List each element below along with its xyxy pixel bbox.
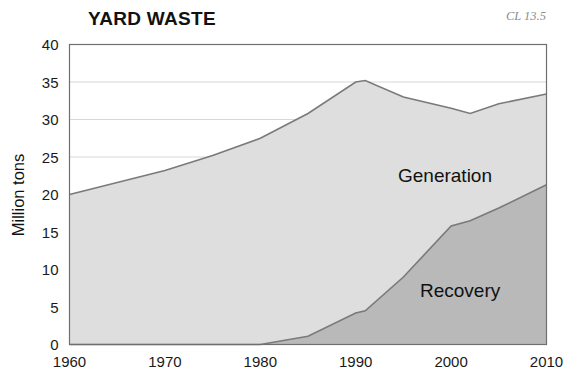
- y-axis-tick-label: 5: [50, 299, 58, 316]
- chart-title: YARD WASTE: [88, 8, 216, 29]
- y-axis-tick-label: 20: [42, 186, 59, 203]
- x-axis-tick-label: 1960: [53, 353, 86, 370]
- x-axis-tick-label: 1970: [148, 353, 181, 370]
- y-axis-title: Million tons: [9, 154, 27, 237]
- y-axis-tick-label: 40: [42, 36, 59, 53]
- chart-container: YARD WASTE CL 13.5 0510152025303540 1960…: [0, 0, 569, 381]
- y-axis-tick-label: 0: [50, 336, 58, 353]
- y-axis-tick-label: 25: [42, 149, 59, 166]
- x-axis-tick-label: 2010: [530, 353, 563, 370]
- y-axis-tick-label: 35: [42, 74, 59, 91]
- x-axis-tick-label: 1990: [339, 353, 372, 370]
- x-axis-tick-label: 1980: [244, 353, 277, 370]
- y-axis-tick-label: 15: [42, 224, 59, 241]
- recovery-series-label: Recovery: [420, 280, 501, 301]
- yard-waste-area-chart: YARD WASTE CL 13.5 0510152025303540 1960…: [0, 0, 569, 381]
- y-axis-tick-label: 30: [42, 111, 59, 128]
- generation-series-label: Generation: [398, 165, 492, 186]
- x-axis-tick-label: 2000: [434, 353, 467, 370]
- corner-code-label: CL 13.5: [506, 9, 546, 23]
- y-axis-tick-label: 10: [42, 261, 59, 278]
